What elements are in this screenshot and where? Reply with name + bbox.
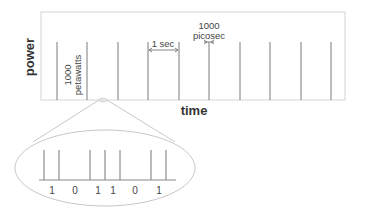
bit-label: 1 <box>95 185 101 196</box>
bit-label: 0 <box>72 185 78 196</box>
pulse-width-unit: picosec <box>193 30 225 41</box>
y-axis-label: power <box>22 38 37 76</box>
peak-power-unit: petawatts <box>72 54 83 95</box>
bit-label: 0 <box>132 185 138 196</box>
bit-labels: 1 0 1 1 0 1 <box>49 185 162 196</box>
period-label: 1 sec <box>152 38 175 49</box>
bit-pulses <box>44 150 166 180</box>
bit-label: 1 <box>156 185 162 196</box>
pulse-train-diagram: power time 1000 petawatts 1 sec 1000 pic… <box>0 0 367 213</box>
x-axis-label: time <box>181 103 208 118</box>
magnifier-spot <box>99 98 107 102</box>
bit-label: 1 <box>49 185 55 196</box>
pulse-lines <box>57 42 331 100</box>
peak-power-annotation: 1000 petawatts <box>62 54 83 95</box>
bit-label: 1 <box>110 185 116 196</box>
